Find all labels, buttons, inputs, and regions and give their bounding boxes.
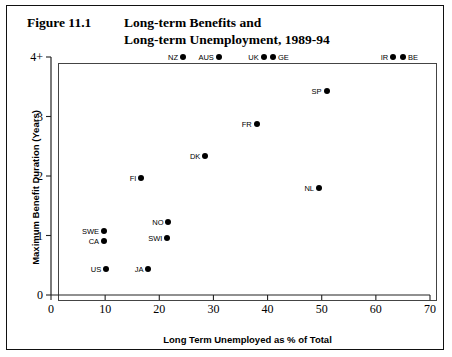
data-point-ir (390, 54, 396, 60)
point-label-fr: FR (242, 120, 252, 129)
point-label-swi: SWI (148, 234, 162, 243)
point-label-dk: DK (190, 152, 200, 161)
data-point-swi (164, 235, 170, 241)
point-label-ja: JA (135, 265, 144, 274)
point-label-no: NO (152, 217, 163, 226)
data-point-ge (270, 54, 276, 60)
point-label-nl: NL (304, 183, 314, 192)
y-tick-label: 3 (19, 109, 43, 124)
x-tick-label: 50 (316, 302, 328, 317)
data-point-ca (101, 238, 107, 244)
data-point-fi (138, 175, 144, 181)
data-point-ja (145, 266, 151, 272)
point-label-be: BE (408, 53, 418, 62)
data-point-no (165, 219, 171, 225)
data-point-us (103, 266, 109, 272)
y-tick-label: 2 (19, 169, 43, 184)
x-tick-label: 20 (153, 302, 165, 317)
data-point-be (400, 54, 406, 60)
point-label-swe: SWE (82, 227, 99, 236)
x-tick-label: 10 (99, 302, 111, 317)
x-tick-label: 60 (370, 302, 382, 317)
data-point-swe (101, 228, 107, 234)
data-point-sp (324, 88, 330, 94)
point-label-us: US (91, 265, 101, 274)
point-label-ca: CA (89, 237, 99, 246)
x-tick-label: 0 (48, 302, 54, 317)
point-label-fi: FI (130, 173, 137, 182)
data-point-dk (202, 153, 208, 159)
data-point-nl (316, 185, 322, 191)
data-point-nz (180, 54, 186, 60)
y-tick-label: 4+ (19, 50, 43, 65)
point-label-ge: GE (278, 53, 289, 62)
data-point-aus (216, 54, 222, 60)
data-point-fr (254, 121, 260, 127)
y-tick-label: 1 (19, 228, 43, 243)
x-tick-label: 70 (424, 302, 436, 317)
point-label-aus: AUS (198, 53, 213, 62)
point-label-uk: UK (248, 53, 258, 62)
chart-overlay: 01020304050607001234+NZAUSUKGEIRBESPFRDK… (0, 0, 452, 357)
data-point-uk (261, 54, 267, 60)
x-tick-label: 30 (207, 302, 219, 317)
x-tick-label: 40 (262, 302, 274, 317)
y-tick-label: 0 (19, 288, 43, 303)
point-label-ir: IR (381, 53, 389, 62)
point-label-nz: NZ (168, 53, 178, 62)
point-label-sp: SP (312, 86, 322, 95)
